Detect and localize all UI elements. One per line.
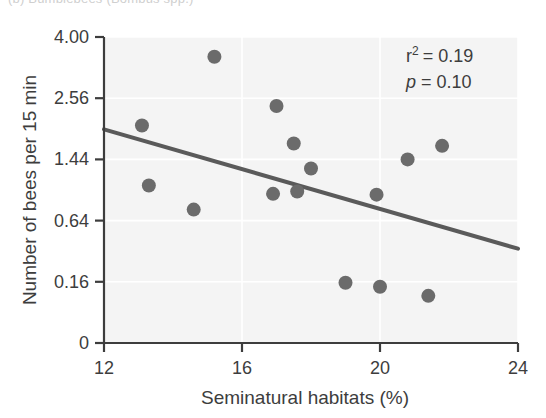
- p-value-annotation: p= 0.10: [405, 72, 472, 92]
- x-axis-tick-label: 24: [508, 358, 528, 378]
- data-point: [266, 187, 280, 201]
- data-point: [287, 137, 301, 151]
- scatter-plot: 00.160.641.442.564.00 12162024 Seminatur…: [0, 0, 546, 418]
- y-axis-ticks: [95, 37, 104, 343]
- data-point: [401, 152, 415, 166]
- figure-container: (b) Bumblebees (Bombus spp.) 00.160.641.…: [0, 0, 546, 418]
- y-axis-tick-labels: 00.160.641.442.564.00: [54, 27, 89, 353]
- p-value: = 0.10: [421, 72, 472, 92]
- x-axis-tick-label: 12: [94, 358, 114, 378]
- data-point: [135, 119, 149, 133]
- y-axis-tick-label: 2.56: [54, 88, 89, 108]
- data-point: [187, 203, 201, 217]
- p-symbol: p: [405, 72, 416, 92]
- data-point: [435, 139, 449, 153]
- y-axis-tick-label: 4.00: [54, 27, 89, 47]
- y-axis-tick-label: 1.44: [54, 149, 89, 169]
- x-axis-title: Seminatural habitats (%): [201, 387, 409, 408]
- x-axis-tick-label: 16: [232, 358, 252, 378]
- data-point: [421, 289, 435, 303]
- y-axis-tick-label: 0.16: [54, 272, 89, 292]
- data-point: [339, 276, 353, 290]
- y-axis-tick-label: 0.64: [54, 211, 89, 231]
- r-superscript: 2: [412, 44, 419, 58]
- x-axis-tick-label: 20: [370, 358, 390, 378]
- y-axis-title: Number of bees per 15 min: [19, 75, 40, 305]
- data-point: [290, 185, 304, 199]
- data-point: [304, 162, 318, 176]
- data-point: [270, 99, 284, 113]
- data-point: [370, 188, 384, 202]
- data-point: [142, 178, 156, 192]
- x-axis-ticks: [104, 343, 518, 352]
- y-axis-tick-label: 0: [79, 333, 89, 353]
- r-squared-value: = 0.19: [423, 46, 474, 66]
- data-point: [373, 280, 387, 294]
- x-axis-tick-labels: 12162024: [94, 358, 528, 378]
- data-point: [207, 50, 221, 64]
